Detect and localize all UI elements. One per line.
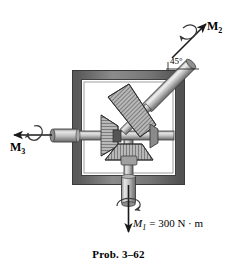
moment-label-m2: M2 [207, 19, 222, 35]
angle-label-45: 45° [170, 56, 183, 66]
moment-label-m1: M1= 300 N · m [133, 217, 203, 232]
m1-subscript: 1 [142, 223, 146, 232]
arrow-up-right-icon [172, 24, 206, 58]
bevel-gear-right-face [150, 124, 158, 148]
m2-subscript: 2 [218, 26, 222, 35]
figure-caption: Prob. 3–62 [0, 248, 237, 260]
m3-subscript: 3 [21, 147, 25, 156]
problem-figure [0, 0, 237, 275]
m1-symbol: M [133, 217, 142, 229]
m3-symbol: M [10, 140, 21, 154]
m2-symbol: M [207, 19, 218, 33]
rotation-curl-icon-m3 [28, 126, 42, 141]
m1-value: = 300 N · m [149, 217, 203, 229]
moment-label-m3: M3 [10, 140, 25, 156]
